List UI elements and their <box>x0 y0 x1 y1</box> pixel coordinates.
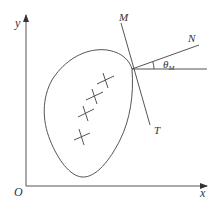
angle-label-theta: θM <box>163 58 175 72</box>
angle-arc <box>153 62 154 69</box>
tangent-angle-diagram: y O x M N T θM <box>0 0 220 214</box>
cross-marker <box>97 73 114 88</box>
cross-marker <box>74 129 90 145</box>
region-boundary-curve <box>44 50 132 177</box>
cross-marker <box>78 106 94 121</box>
line-M-T <box>121 23 150 125</box>
label-T: T <box>154 124 161 136</box>
label-M: M <box>118 11 129 23</box>
y-axis-label: y <box>14 16 21 30</box>
x-axis-label: x <box>199 186 206 200</box>
cross-marker <box>86 89 103 104</box>
theta-subscript: M <box>167 64 175 72</box>
origin-label: O <box>14 185 23 199</box>
label-N: N <box>187 32 196 44</box>
